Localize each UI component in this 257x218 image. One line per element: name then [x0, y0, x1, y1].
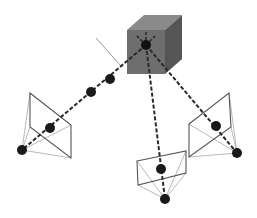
ray-sample-point	[105, 74, 115, 84]
camera-geometry-diagram	[0, 0, 257, 218]
camera-frusta	[22, 93, 237, 199]
projection-point	[156, 164, 166, 174]
camera-center-point	[17, 145, 27, 155]
frustum-edge	[22, 150, 71, 158]
bottom-camera	[137, 151, 186, 199]
object-center-point	[141, 40, 151, 50]
camera-center-point	[232, 148, 242, 158]
projection-point	[45, 123, 55, 133]
projection-point	[211, 121, 221, 131]
normal-line	[96, 38, 121, 66]
ray-left-camera	[22, 45, 146, 150]
diagram-canvas	[0, 0, 257, 218]
frustum-edge	[189, 153, 237, 157]
frustum-edge	[165, 151, 186, 199]
ray-right-camera	[146, 45, 237, 153]
camera-center-point	[160, 194, 170, 204]
cube-object	[127, 15, 182, 74]
ray-sample-point	[86, 87, 96, 97]
frustum-edge	[22, 93, 30, 150]
normal-line-segment	[96, 38, 121, 66]
